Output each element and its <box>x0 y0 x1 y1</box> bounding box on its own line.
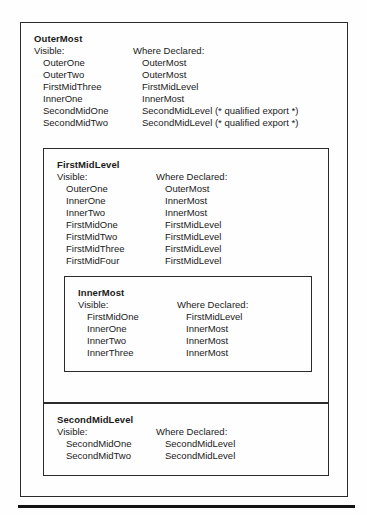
list-item: SecondMidTwo <box>66 450 131 462</box>
list-item: InnerMost <box>165 207 222 219</box>
list-item: InnerTwo <box>87 335 139 347</box>
list-item: SecondMidLevel (* qualified export *) <box>142 105 298 117</box>
scope-box-innermost: InnerMost Visible: Where Declared: First… <box>64 276 312 372</box>
list-item: FirstMidFour <box>66 255 125 267</box>
column-header-visible-outermost: Visible: <box>34 45 64 57</box>
list-item: OuterOne <box>66 183 125 195</box>
list-item: FirstMidTwo <box>66 231 125 243</box>
list-item: SecondMidLevel <box>165 438 235 450</box>
list-item: OuterOne <box>43 57 108 69</box>
list-item: SecondMidLevel (* qualified export *) <box>142 117 298 129</box>
where-declared-list-innermost: FirstMidLevel InnerMost InnerMost InnerM… <box>177 311 243 359</box>
list-item: OuterTwo <box>43 69 108 81</box>
column-header-where-declared-outermost: Where Declared: <box>133 45 204 57</box>
column-header-where-declared-innermost: Where Declared: <box>177 299 248 311</box>
scope-box-firstmidlevel: FirstMidLevel Visible: Where Declared: O… <box>43 148 329 403</box>
scope-title-innermost: InnerMost <box>78 287 124 299</box>
visible-list-secondmidlevel: SecondMidOne SecondMidTwo <box>57 438 131 462</box>
list-item: InnerMost <box>186 335 243 347</box>
list-item: FirstMidLevel <box>165 243 222 255</box>
list-item: FirstMidLevel <box>186 311 243 323</box>
list-item: FirstMidThree <box>66 243 125 255</box>
list-item: OuterMost <box>142 57 298 69</box>
scope-box-outermost: OuterMost Visible: Where Declared: Outer… <box>20 22 348 497</box>
list-item: InnerOne <box>66 195 125 207</box>
list-item: InnerMost <box>186 347 243 359</box>
visible-list-outermost: OuterOne OuterTwo FirstMidThree InnerOne… <box>34 57 108 129</box>
visible-list-firstmidlevel: OuterOne InnerOne InnerTwo FirstMidOne F… <box>57 183 125 267</box>
list-item: OuterMost <box>165 183 222 195</box>
column-header-where-declared-secondmidlevel: Where Declared: <box>156 426 227 438</box>
list-item: InnerMost <box>142 93 298 105</box>
list-item: FirstMidThree <box>43 81 108 93</box>
visible-list-innermost: FirstMidOne InnerOne InnerTwo InnerThree <box>78 311 139 359</box>
column-header-visible-secondmidlevel: Visible: <box>57 426 87 438</box>
where-declared-list-secondmidlevel: SecondMidLevel SecondMidLevel <box>156 438 235 462</box>
column-header-visible-innermost: Visible: <box>78 299 108 311</box>
list-item: OuterMost <box>142 69 298 81</box>
figure-page: OuterMost Visible: Where Declared: Outer… <box>0 0 367 515</box>
list-item: InnerOne <box>87 323 139 335</box>
list-item: FirstMidLevel <box>165 255 222 267</box>
list-item: InnerMost <box>165 195 222 207</box>
list-item: FirstMidOne <box>66 219 125 231</box>
list-item: SecondMidLevel <box>165 450 235 462</box>
column-header-visible-firstmidlevel: Visible: <box>57 171 87 183</box>
list-item: InnerThree <box>87 347 139 359</box>
scope-box-secondmidlevel: SecondMidLevel Visible: Where Declared: … <box>43 403 329 476</box>
list-item: SecondMidOne <box>66 438 131 450</box>
list-item: SecondMidOne <box>43 105 108 117</box>
list-item: InnerMost <box>186 323 243 335</box>
column-header-where-declared-firstmidlevel: Where Declared: <box>156 171 227 183</box>
where-declared-list-outermost: OuterMost OuterMost FirstMidLevel InnerM… <box>133 57 298 129</box>
list-item: FirstMidLevel <box>165 231 222 243</box>
list-item: SecondMidTwo <box>43 117 108 129</box>
scope-title-outermost: OuterMost <box>34 33 82 45</box>
page-bottom-rule <box>18 505 355 508</box>
list-item: InnerOne <box>43 93 108 105</box>
scope-title-secondmidlevel: SecondMidLevel <box>57 414 133 426</box>
list-item: InnerTwo <box>66 207 125 219</box>
scope-title-firstmidlevel: FirstMidLevel <box>57 159 120 171</box>
list-item: FirstMidLevel <box>165 219 222 231</box>
list-item: FirstMidLevel <box>142 81 298 93</box>
where-declared-list-firstmidlevel: OuterMost InnerMost InnerMost FirstMidLe… <box>156 183 222 267</box>
list-item: FirstMidOne <box>87 311 139 323</box>
